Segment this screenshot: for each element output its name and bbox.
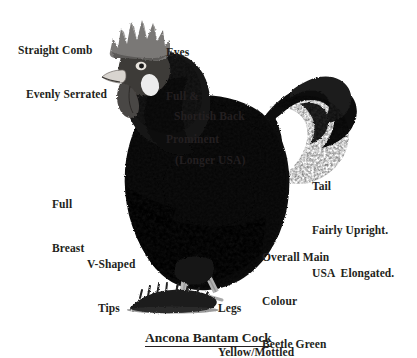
label-v-shaped-tips: V-Shaped Tips	[87, 228, 136, 344]
label-v-shaped-tips-line2: Tips	[87, 301, 136, 316]
label-tail-line1: Tail	[312, 179, 394, 194]
figure-title: Ancona Bantam Cock	[0, 330, 417, 346]
label-shortish-back-line2: (Longer USA)	[174, 153, 245, 168]
label-full-breast-line2: Breast	[52, 241, 84, 256]
label-full-breast: Full Breast	[52, 168, 84, 284]
single-comb	[110, 20, 170, 61]
label-full-breast-line1: Full	[52, 197, 84, 212]
label-overall-main-colour-line1: Overall Main	[262, 250, 329, 265]
label-straight-comb-line1: Straight Comb	[18, 43, 107, 58]
label-v-shaped-tips-line1: V-Shaped	[87, 257, 136, 272]
figure-canvas: Straight Comb Evenly Serrated Eyes Full …	[0, 0, 417, 358]
label-straight-comb-line2: Evenly Serrated	[18, 87, 107, 102]
label-eyes-line1: Eyes	[166, 45, 219, 60]
label-shortish-back: Shortish Back (Longer USA)	[174, 80, 245, 196]
label-straight-comb: Straight Comb Evenly Serrated	[18, 14, 107, 130]
label-shortish-back-line1: Shortish Back	[174, 109, 245, 124]
label-legs-line1: Legs	[218, 301, 294, 316]
figure-title-text: Ancona Bantam Cock	[145, 330, 272, 347]
